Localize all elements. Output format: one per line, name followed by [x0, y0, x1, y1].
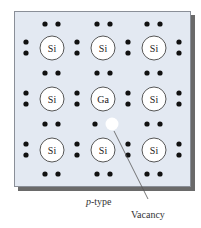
atom-symbol: Si: [150, 145, 159, 156]
vacancy-label: Vacancy: [131, 209, 165, 220]
atom-symbol: Si: [48, 43, 57, 54]
caption-rest: -type: [91, 196, 112, 207]
caption: p-type: [86, 196, 112, 207]
atom-symbol: Si: [99, 43, 108, 54]
atom-symbol: Si: [99, 145, 108, 156]
lattice-diagram: Si Si Si Si Ga Si Si Si Si: [0, 0, 201, 228]
dopant-symbol: Ga: [97, 94, 109, 105]
atom-symbol: Si: [48, 145, 57, 156]
atom-symbol: Si: [48, 94, 57, 105]
vacancy-pointer: [114, 131, 148, 199]
atom-symbol: Si: [150, 43, 159, 54]
vacancy-hole: [106, 118, 119, 131]
atom-symbol: Si: [150, 94, 159, 105]
